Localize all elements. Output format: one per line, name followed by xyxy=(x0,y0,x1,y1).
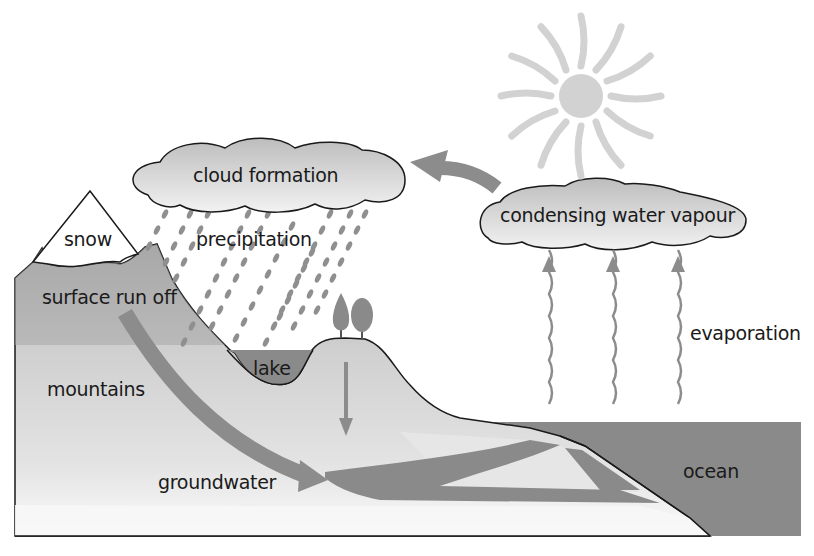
label-snow: snow xyxy=(64,230,112,249)
evaporation-arrows xyxy=(542,250,685,404)
label-groundwater: groundwater xyxy=(158,473,276,492)
label-evaporation: evaporation xyxy=(690,324,801,343)
tree-icon xyxy=(351,298,373,332)
label-cloud-formation: cloud formation xyxy=(193,166,338,185)
label-mountains: mountains xyxy=(47,380,145,399)
label-surface-run-off: surface run off xyxy=(42,288,177,307)
trees xyxy=(333,293,373,340)
label-precipitation: precipitation xyxy=(196,230,312,249)
label-ocean: ocean xyxy=(683,462,739,481)
tree-icon xyxy=(333,293,349,331)
sun-icon xyxy=(501,16,661,176)
vapour-transport-arrow xyxy=(410,150,497,188)
water-cycle-diagram: cloud formation condensing water vapour … xyxy=(0,0,814,556)
label-condensing-water-vapour: condensing water vapour xyxy=(500,206,735,225)
label-lake: lake xyxy=(253,359,291,378)
